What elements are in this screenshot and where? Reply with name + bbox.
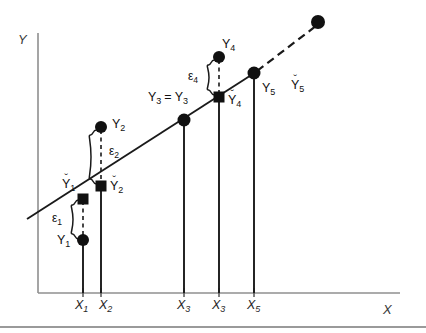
fitted-marker-yhat2 bbox=[96, 181, 107, 192]
x-tick-label-4-sub: 3 bbox=[220, 304, 225, 314]
x-axis-label: X bbox=[383, 303, 392, 316]
fitted-label-yhat5: ˇY5 bbox=[291, 79, 304, 92]
hat-accent-icon: ˇ bbox=[112, 175, 116, 187]
residual-label-e4-sub: 4 bbox=[193, 75, 198, 85]
brace-e4 bbox=[207, 60, 214, 95]
x-tick-label-5: X5 bbox=[247, 299, 260, 312]
x-tick-label-3-sub: 3 bbox=[185, 304, 190, 314]
x-tick-label-2-sub: 2 bbox=[107, 304, 112, 314]
point-label-y3-left-sub: 3 bbox=[156, 96, 161, 106]
point-label-y2-sub: 2 bbox=[120, 123, 125, 133]
residual-connector-group bbox=[83, 60, 219, 238]
bottom-separator-rule bbox=[0, 326, 426, 328]
x-tick-label-4: X3 bbox=[212, 299, 225, 312]
residual-label-e4: ε4 bbox=[188, 70, 198, 82]
brace-e1 bbox=[71, 200, 78, 239]
hat-accent-icon: ˇ bbox=[230, 89, 234, 101]
point-label-y4: Y4 bbox=[222, 38, 235, 51]
residual-label-e1-sub: 1 bbox=[57, 217, 62, 227]
fitted-label-yhat1-sub: 1 bbox=[70, 183, 75, 193]
point-label-y5: Y5 bbox=[262, 82, 275, 95]
observed-marker-y5 bbox=[248, 67, 261, 80]
fitted-label-yhat2-sub: 2 bbox=[118, 185, 123, 195]
fitted-marker-yhat4 bbox=[214, 92, 225, 103]
point-label-y3-equality: Y3=Y3 bbox=[148, 91, 188, 104]
fitted-label-yhat4-sub: 4 bbox=[236, 99, 241, 109]
point-label-y5-sub: 5 bbox=[270, 87, 275, 97]
fitted-label-yhat2: ˇY2 bbox=[110, 180, 123, 193]
observed-marker-y1 bbox=[77, 234, 89, 246]
fitted-marker-yhat1 bbox=[78, 194, 89, 205]
point-label-y4-sub: 4 bbox=[230, 43, 235, 53]
fitted-marker-group bbox=[78, 92, 225, 205]
observed-marker-y3 bbox=[178, 114, 191, 127]
residual-label-e1: ε1 bbox=[52, 212, 62, 224]
observed-marker-extrapolated bbox=[311, 15, 325, 29]
point-label-y3-equals: = bbox=[164, 90, 171, 104]
point-label-y2: Y2 bbox=[112, 118, 125, 131]
point-label-y3-right-base: Y bbox=[175, 90, 183, 104]
y-axis-label: Y bbox=[18, 33, 27, 46]
residual-brace-group bbox=[71, 60, 214, 239]
x-tick-label-5-sub: 5 bbox=[255, 304, 260, 314]
point-label-y1: Y1 bbox=[57, 234, 70, 247]
regression-residual-diagram: Y X X1 X2 X3 X3 X5 Y1 Y2 Y4 Y5 Y3=Y3 ˇY1… bbox=[0, 0, 426, 333]
residual-label-e2: ε2 bbox=[109, 145, 119, 157]
observed-marker-y4 bbox=[213, 51, 225, 63]
x-tick-label-2: X2 bbox=[99, 299, 112, 312]
observed-marker-y2 bbox=[95, 121, 107, 133]
fitted-label-yhat4: ˇY4 bbox=[228, 94, 241, 107]
regression-line-extension bbox=[257, 26, 316, 71]
hat-accent-icon: ˇ bbox=[293, 74, 297, 86]
point-label-y1-sub: 1 bbox=[65, 239, 70, 249]
fitted-label-yhat1: ˇY1 bbox=[62, 178, 75, 191]
point-label-y3-right-sub: 3 bbox=[183, 96, 188, 106]
x-tick-label-1-sub: 1 bbox=[83, 304, 88, 314]
x-tick-label-3: X3 bbox=[177, 299, 190, 312]
fitted-label-yhat5-sub: 5 bbox=[299, 84, 304, 94]
hat-accent-icon: ˇ bbox=[64, 173, 68, 185]
x-tick-label-1: X1 bbox=[75, 299, 88, 312]
residual-label-e2-sub: 2 bbox=[114, 150, 119, 160]
diagram-canvas bbox=[0, 0, 426, 333]
